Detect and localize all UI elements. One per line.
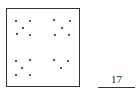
dot-bottom-right xyxy=(67,60,69,62)
dot-bottom-left xyxy=(15,74,17,76)
answer-value: 17 xyxy=(98,73,135,85)
dot-top-left xyxy=(16,33,18,35)
dot-top-right xyxy=(61,27,63,29)
dot-top-right xyxy=(69,20,71,22)
answer-underline xyxy=(98,87,135,88)
dot-top-right xyxy=(54,34,56,36)
dot-bottom-left xyxy=(21,67,23,69)
dot-bottom-left xyxy=(29,59,31,61)
dot-bottom-left xyxy=(29,74,31,76)
dot-top-right xyxy=(53,19,55,21)
dot-bottom-left xyxy=(15,60,17,62)
dot-top-right xyxy=(68,34,70,36)
dot-top-left xyxy=(15,20,17,22)
dot-bottom-right xyxy=(60,67,62,69)
dot-bottom-right xyxy=(53,59,55,61)
dot-top-left xyxy=(29,20,31,22)
dot-top-left xyxy=(29,34,31,36)
dot-top-left xyxy=(22,27,24,29)
